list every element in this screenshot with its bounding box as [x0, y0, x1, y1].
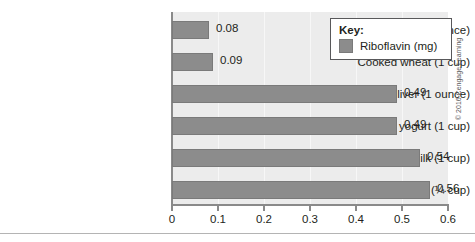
bar-value-label: 0.49 — [404, 118, 426, 130]
x-axis-tick-label: 0.1 — [198, 213, 238, 225]
bar — [172, 21, 209, 39]
bottom-divider — [0, 233, 475, 234]
bar — [172, 149, 420, 167]
chart-legend: Key: Riboflavin (mg) — [330, 18, 452, 60]
x-axis-tick-label: 0.2 — [244, 213, 284, 225]
x-axis-tick-label: 0.6 — [428, 213, 468, 225]
bar — [172, 85, 397, 103]
x-axis-tick — [263, 205, 265, 211]
gridline — [218, 12, 219, 205]
y-axis-line — [171, 12, 173, 205]
bar-value-label: 0.56 — [437, 182, 459, 194]
gridline — [310, 12, 311, 205]
x-axis-tick — [355, 205, 357, 211]
x-axis-tick-label: 0.3 — [290, 213, 330, 225]
legend-entry-label: Riboflavin (mg) — [360, 40, 437, 52]
legend-title: Key: — [339, 24, 443, 36]
bar — [172, 117, 397, 135]
bar — [172, 53, 213, 71]
x-axis-tick-label: 0.5 — [382, 213, 422, 225]
x-axis-tick-label: 0 — [152, 213, 192, 225]
bar-value-label: 0.09 — [220, 54, 242, 66]
bar-value-label: 0.08 — [216, 22, 238, 34]
copyright-credit: © 2016 Cengage Learning — [455, 38, 462, 120]
bar — [172, 181, 430, 199]
x-axis-tick-label: 0.4 — [336, 213, 376, 225]
bar-value-label: 0.54 — [427, 150, 449, 162]
gridline — [264, 12, 265, 205]
riboflavin-bar-chart-figure: 0 0.1 0.2 0.3 0.4 0.5 0.6 Cheese (1 ounc… — [0, 0, 475, 242]
legend-swatch-icon — [339, 39, 353, 53]
x-axis-tick — [401, 205, 403, 211]
legend-entry: Riboflavin (mg) — [339, 39, 443, 53]
bar-value-label: 0.49 — [404, 86, 426, 98]
x-axis-tick — [309, 205, 311, 211]
x-axis-tick — [447, 205, 449, 211]
x-axis-tick — [171, 205, 173, 211]
x-axis-tick — [217, 205, 219, 211]
